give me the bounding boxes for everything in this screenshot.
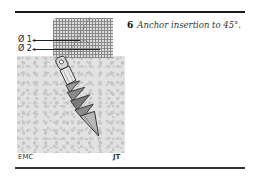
anchor-illustration: Ø 1 ◂ Ø 2 ◂ EMC JT (0, 0, 130, 165)
bottom-rule (15, 167, 245, 169)
diameter-2-line (34, 49, 100, 50)
caption-text: Anchor insertion to 45°. (137, 20, 241, 30)
diameter-1-line (34, 40, 80, 41)
diameter-2-label: Ø 2 (18, 45, 32, 53)
figure-number: 6 (127, 20, 133, 30)
credit-right: JT (113, 153, 120, 161)
arrow-left-icon: ◂ (32, 46, 35, 52)
anchor-drawing-icon (0, 0, 130, 165)
credit-left: EMC (18, 153, 33, 161)
arrow-left-icon: ◂ (32, 37, 35, 43)
figure-caption: 6Anchor insertion to 45°. (127, 20, 245, 30)
diameter-1-label: Ø 1 (18, 36, 32, 44)
